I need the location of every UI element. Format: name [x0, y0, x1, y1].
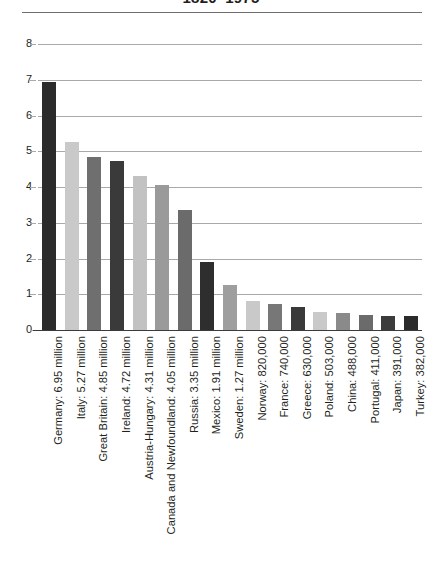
- y-tick-mark: [30, 44, 36, 45]
- y-tick-mark: [30, 223, 36, 224]
- x-tick-label: China: 488,000: [347, 336, 358, 412]
- x-axis-line: [33, 330, 422, 331]
- bar: [359, 315, 373, 330]
- y-tick-mark: [30, 151, 36, 152]
- bar: [336, 313, 350, 330]
- bar: [291, 307, 305, 330]
- y-tick-label: 2: [6, 253, 32, 264]
- bar: [381, 316, 395, 330]
- y-tick-mark: [30, 294, 36, 295]
- title-divider: [22, 12, 422, 13]
- y-tick-label: 0: [6, 324, 32, 335]
- x-tick-label: France: 740,000: [279, 336, 290, 417]
- y-axis: 876543210: [0, 44, 32, 330]
- bar: [42, 82, 56, 330]
- bar: [223, 285, 237, 330]
- y-tick-mark: [30, 80, 36, 81]
- bar: [87, 157, 101, 330]
- y-tick-label: 5: [6, 145, 32, 156]
- bar: [110, 161, 124, 330]
- x-tick-label: Mexico: 1.91 million: [211, 336, 222, 434]
- x-tick-label: Germany: 6.95 million: [53, 336, 64, 445]
- y-tick-mark: [30, 259, 36, 260]
- bar: [313, 312, 327, 330]
- x-tick-label: Greece: 630,000: [302, 336, 313, 419]
- gridline: [38, 151, 422, 152]
- bar: [200, 262, 214, 330]
- x-tick-label: Japan: 391,000: [392, 336, 403, 413]
- bar-chart: 1820–1975 876543210 Germany: 6.95 millio…: [0, 0, 442, 574]
- plot-area: [38, 44, 422, 330]
- y-tick-label: 8: [6, 38, 32, 49]
- y-tick-label: 7: [6, 74, 32, 85]
- y-tick-label: 3: [6, 217, 32, 228]
- x-tick-label: Turkey: 382,000: [415, 336, 426, 416]
- x-tick-label: Austria-Hungary: 4.31 million: [144, 336, 155, 480]
- chart-title: 1820–1975: [0, 0, 442, 6]
- x-tick-label: Italy: 5.27 million: [76, 336, 87, 419]
- x-tick-label: Great Britain: 4.85 million: [98, 336, 109, 462]
- bar: [404, 316, 418, 330]
- x-tick-label: Sweden: 1.27 million: [234, 336, 245, 439]
- bar: [246, 301, 260, 330]
- x-tick-label: Russia: 3.35 million: [189, 336, 200, 433]
- bar: [268, 304, 282, 330]
- bar: [133, 176, 147, 330]
- x-tick-label: Canada and Newfoundland: 4.05 million: [166, 336, 177, 534]
- y-tick-label: 6: [6, 110, 32, 121]
- y-tick-mark: [30, 116, 36, 117]
- bar: [155, 185, 169, 330]
- gridline: [38, 80, 422, 81]
- x-tick-label: Portugal: 411,000: [370, 336, 381, 424]
- y-tick-mark: [30, 187, 36, 188]
- x-tick-label: Ireland: 4.72 million: [121, 336, 132, 433]
- x-tick-label: Poland: 503,000: [324, 336, 335, 418]
- x-tick-label: Norway: 820,000: [257, 336, 268, 421]
- x-axis-labels: Germany: 6.95 millionItaly: 5.27 million…: [38, 332, 422, 572]
- y-tick-label: 1: [6, 288, 32, 299]
- bar: [65, 142, 79, 330]
- y-tick-label: 4: [6, 181, 32, 192]
- bar: [178, 210, 192, 330]
- gridline: [38, 116, 422, 117]
- gridline: [38, 44, 422, 45]
